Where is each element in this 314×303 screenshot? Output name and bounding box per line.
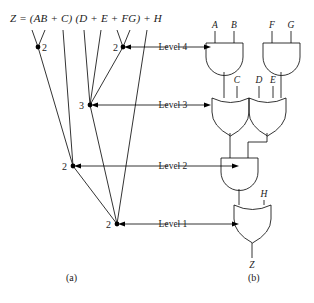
level-label-1: Level 1: [159, 219, 188, 229]
equation-text: Z = (AB + C) (D + E + FG) + H: [10, 12, 162, 24]
gate-and-fg: [263, 43, 300, 76]
tree-node-and-top: [115, 222, 120, 227]
circuit-input-h: H: [260, 189, 269, 199]
gate-and-ab: [206, 43, 243, 76]
figure-svg: 2 2 3 2 2 Level 4 Level 3 Level 2 Level …: [0, 0, 314, 303]
boolean-equation: Z = (AB + C) (D + E + FG) + H: [10, 12, 162, 24]
tree-edges: [32, 30, 147, 224]
level-label-2: Level 2: [159, 161, 188, 171]
tree-node-label-0: 2: [42, 42, 47, 53]
gate-or-abc: [212, 98, 249, 136]
tree-node-and-ab: [36, 45, 41, 50]
circuit-input-e: E: [269, 75, 276, 85]
tree-node-and-fg: [121, 45, 126, 50]
tree-node-labels: 2 2 3 2 2: [42, 42, 118, 230]
circuit-input-c: C: [234, 75, 241, 85]
figure-container: Z = (AB + C) (D + E + FG) + H: [0, 0, 314, 303]
circuit-input-d: D: [255, 75, 263, 85]
tree-node-or-abc: [71, 164, 76, 169]
circuit-input-labels: A B F G C D E H Z: [211, 20, 294, 270]
tree-node-label-2: 3: [79, 100, 84, 111]
circuit-output-z: Z: [249, 260, 255, 270]
gate-or-out: [234, 205, 271, 243]
circuit-input-b: B: [231, 20, 237, 30]
caption-b: (b): [248, 272, 260, 283]
tree-nodes: [36, 45, 126, 227]
level-label-3: Level 3: [159, 100, 188, 110]
level-label-4: Level 4: [159, 42, 188, 52]
tree-node-label-1: 2: [113, 42, 118, 53]
tree-node-or-defg: [88, 103, 93, 108]
circuit-input-f: F: [268, 20, 275, 30]
tree-node-label-3: 2: [62, 161, 67, 172]
gate-or-defg: [249, 98, 286, 136]
circuit-input-g: G: [288, 20, 295, 30]
gate-and-main: [221, 158, 258, 191]
circuit-input-a: A: [211, 20, 218, 30]
caption-a: (a): [66, 272, 77, 283]
level-labels: Level 4 Level 3 Level 2 Level 1: [159, 42, 188, 229]
tree-node-label-4: 2: [106, 219, 111, 230]
